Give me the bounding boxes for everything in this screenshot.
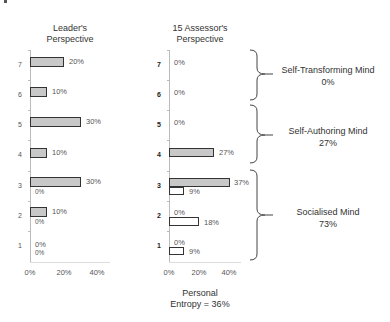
right-cat-1: 1 <box>151 242 161 249</box>
right-cat-4: 4 <box>151 151 161 158</box>
right-cat-5: 5 <box>151 121 161 128</box>
left-title-line2: Perspective <box>20 34 120 45</box>
left-tick <box>28 231 31 232</box>
right-cat-6: 6 <box>151 91 161 98</box>
right-label-2b: 18% <box>204 218 219 227</box>
left-label-6: 10% <box>52 87 67 96</box>
mind-value: 27% <box>268 137 388 149</box>
left-label-2b: 0% <box>35 218 44 225</box>
left-cat-6: 6 <box>12 91 22 98</box>
left-x-axis <box>30 262 110 263</box>
right-title-line1: 15 Assessor's <box>150 23 250 34</box>
right-label-1a: 0% <box>174 238 185 247</box>
left-tick <box>28 80 31 81</box>
left-bar-2 <box>30 207 47 217</box>
left-cat-1: 1 <box>12 242 22 249</box>
right-x-axis <box>169 262 241 263</box>
left-tick <box>28 50 31 51</box>
right-bar-3-secondary <box>169 187 184 195</box>
right-xtick-40: 40% <box>217 268 241 277</box>
right-tick <box>167 201 170 202</box>
right-tick <box>167 140 170 141</box>
entropy-line2: Entropy = 36% <box>140 299 260 310</box>
right-bar-1-secondary <box>169 247 184 255</box>
corner-mark <box>4 0 7 3</box>
left-tick <box>28 110 31 111</box>
right-cat-3: 3 <box>151 182 161 189</box>
left-label-4: 10% <box>52 148 67 157</box>
mind-self-transforming: Self-Transforming Mind 0% <box>268 64 388 88</box>
left-label-3b: 0% <box>35 188 44 195</box>
left-tick <box>28 171 31 172</box>
left-chart-title: Leader's Perspective <box>20 23 120 45</box>
left-tick <box>28 201 31 202</box>
left-bar-7 <box>30 57 64 67</box>
mind-socialised: Socialised Mind 73% <box>268 206 388 230</box>
left-cat-4: 4 <box>12 151 22 158</box>
left-label-7: 20% <box>69 57 84 66</box>
right-label-6: 0% <box>174 88 185 97</box>
mind-label: Self-Transforming Mind <box>268 64 388 76</box>
left-bar-4 <box>30 148 47 158</box>
left-xtick-40: 40% <box>85 268 109 277</box>
right-tick <box>167 171 170 172</box>
mind-self-authoring: Self-Authoring Mind 27% <box>268 125 388 149</box>
right-cat-2: 2 <box>151 212 161 219</box>
right-tick <box>167 110 170 111</box>
right-bar-2-secondary <box>169 217 199 226</box>
right-tick <box>167 231 170 232</box>
right-xtick-0: 0% <box>157 268 181 277</box>
right-bar-3-primary <box>169 178 230 187</box>
left-cat-2: 2 <box>12 212 22 219</box>
left-title-line1: Leader's <box>20 23 120 34</box>
right-label-7: 0% <box>174 58 185 67</box>
mind-value: 0% <box>268 76 388 88</box>
right-label-1b: 9% <box>189 247 200 256</box>
mind-label: Socialised Mind <box>268 206 388 218</box>
personal-entropy-label: Personal Entropy = 36% <box>140 288 260 310</box>
right-label-5: 0% <box>174 118 185 127</box>
right-label-3b: 9% <box>189 187 200 196</box>
right-label-2a: 0% <box>174 208 185 217</box>
left-cat-7: 7 <box>12 61 22 68</box>
left-bar-3 <box>30 177 81 187</box>
left-tick <box>28 140 31 141</box>
left-cat-3: 3 <box>12 182 22 189</box>
left-label-1a: 0% <box>35 240 46 249</box>
right-xtick-20: 20% <box>187 268 211 277</box>
entropy-line1: Personal <box>140 288 260 299</box>
mind-value: 73% <box>268 218 388 230</box>
right-label-4: 27% <box>219 148 234 157</box>
left-xtick-20: 20% <box>52 268 76 277</box>
right-cat-7: 7 <box>151 61 161 68</box>
right-bar-4 <box>169 148 214 157</box>
right-tick <box>167 50 170 51</box>
left-label-5: 30% <box>86 117 101 126</box>
left-xtick-0: 0% <box>18 268 42 277</box>
right-title-line2: Perspective <box>150 34 250 45</box>
right-chart-title: 15 Assessor's Perspective <box>150 23 250 45</box>
left-cat-5: 5 <box>12 121 22 128</box>
left-label-2a: 10% <box>52 207 67 216</box>
left-label-1b: 0% <box>35 249 44 256</box>
mind-label: Self-Authoring Mind <box>268 125 388 137</box>
left-bar-5 <box>30 117 81 127</box>
right-tick <box>167 80 170 81</box>
left-label-3a: 30% <box>86 177 101 186</box>
left-bar-6 <box>30 87 47 97</box>
